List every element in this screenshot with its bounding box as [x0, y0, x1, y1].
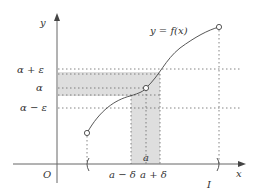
open-endpoint-left [84, 130, 89, 135]
y-tick-alpha-plus-epsilon: α + ε [17, 64, 44, 75]
y-axis-arrow-icon [54, 13, 60, 21]
origin-label: O [43, 169, 51, 180]
axes [13, 20, 240, 183]
open-endpoint-right [216, 24, 221, 29]
x-tick-a-plus-delta: a + δ [140, 169, 167, 180]
epsilon-delta-diagram: y x O y = f(x) α + ε α α − ε a − δ a a +… [0, 0, 258, 195]
point-a-alpha [143, 85, 148, 90]
y-tick-alpha-minus-epsilon: α − ε [20, 102, 47, 113]
x-tick-a: a [143, 152, 149, 163]
curve-label: y = f(x) [149, 25, 188, 36]
x-axis-label: x [236, 168, 242, 179]
interval-label: I [206, 179, 212, 190]
y-tick-alpha: α [36, 82, 43, 93]
y-axis-label: y [39, 17, 46, 28]
x-axis-arrow-icon [238, 161, 246, 167]
x-tick-a-minus-delta: a − δ [109, 169, 136, 180]
